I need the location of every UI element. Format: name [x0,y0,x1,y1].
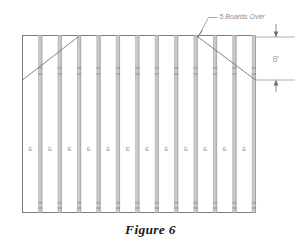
batten-strip [233,36,236,213]
annotation-leader-line [198,18,218,38]
technical-drawing-canvas: EEEEEEEEEEEE 5 Boards Over [0,0,301,248]
annotation-label: 5 Boards Over [220,13,266,20]
batten-strip [252,36,255,213]
batten-strip [58,36,61,213]
board-letter-label: E [145,146,149,152]
board-letter-label: E [165,146,169,152]
batten-strip [213,36,216,213]
batten-strip [116,36,119,213]
board-letter-label: E [87,146,91,152]
board-letter-label: E [106,146,110,152]
board-letter-label: E [67,146,71,152]
board-letter-label: E [29,146,33,152]
batten-strip [175,36,178,213]
dimension-group: 8' [256,24,295,92]
batten-strip [39,36,42,213]
arrow-down-icon [274,80,279,92]
dimension-label: 8' [273,54,280,64]
board-letter-label: E [242,146,246,152]
batten-strip [155,36,158,213]
batten-strip [194,36,197,213]
board-letter-label: E [203,146,207,152]
batten-strip [97,36,100,213]
board-letter-label: E [223,146,227,152]
board-letter-label: E [126,146,130,152]
batten-strip [78,36,81,213]
batten-strip [136,36,139,213]
figure-6-drawing: EEEEEEEEEEEE 5 Boards Over [0,0,301,248]
board-letter-label: E [184,146,188,152]
arrow-up-icon [274,24,279,37]
board-letter-label: E [48,146,52,152]
figure-caption: Figure 6 [0,222,301,238]
